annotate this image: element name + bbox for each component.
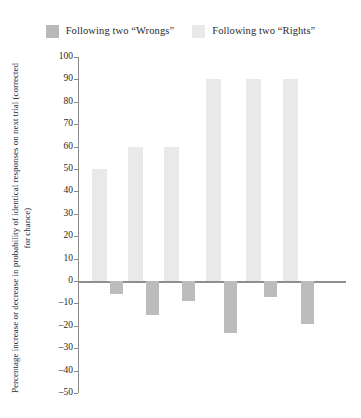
y-axis-title: Percentage increase or decrease in proba… xyxy=(9,58,33,398)
bar-wrongs-4 xyxy=(224,281,237,333)
bar-wrongs-3 xyxy=(182,281,195,301)
bars-group xyxy=(78,57,346,393)
y-tick-label: –10 xyxy=(59,299,73,309)
legend-swatch-rights xyxy=(192,25,205,38)
bar-wrongs-6 xyxy=(301,281,314,324)
y-tick-label: 30 xyxy=(64,209,74,219)
y-tick-label: 40 xyxy=(64,187,74,197)
y-tick-label: 100 xyxy=(59,52,73,62)
chart-figure: Following two “Wrongs” Following two “Ri… xyxy=(0,0,361,418)
y-axis-title-container: Percentage increase or decrease in proba… xyxy=(6,55,36,400)
y-tick-label: 10 xyxy=(64,254,74,264)
bar-rights-1 xyxy=(92,169,107,281)
bar-wrongs-5 xyxy=(264,281,277,297)
chart-legend: Following two “Wrongs” Following two “Ri… xyxy=(0,22,361,40)
y-tick-label: –40 xyxy=(59,366,73,376)
bar-wrongs-1 xyxy=(110,281,123,294)
y-tick-label: –20 xyxy=(59,321,73,331)
legend-swatch-wrongs xyxy=(46,25,59,38)
y-tick-label: 70 xyxy=(64,119,74,129)
y-tick-mark xyxy=(74,393,78,394)
legend-label-wrongs: Following two “Wrongs” xyxy=(66,26,175,37)
y-tick-label: 60 xyxy=(64,142,74,152)
legend-label-rights: Following two “Rights” xyxy=(212,26,315,37)
y-tick-label: 90 xyxy=(64,75,74,85)
legend-entry-rights: Following two “Rights” xyxy=(192,25,315,38)
bar-rights-2 xyxy=(128,147,143,281)
bar-rights-5 xyxy=(246,79,261,281)
y-tick-label: 50 xyxy=(64,164,74,174)
y-tick-label: 0 xyxy=(68,276,73,286)
y-tick-label: –50 xyxy=(59,388,73,398)
legend-entry-wrongs: Following two “Wrongs” xyxy=(46,25,175,38)
y-tick-label: 20 xyxy=(64,231,74,241)
plot-area: 1009080706050403020100–10–20–30–40–50 xyxy=(78,57,346,393)
bar-rights-3 xyxy=(164,147,179,281)
bar-wrongs-2 xyxy=(146,281,159,315)
bar-rights-4 xyxy=(206,79,221,281)
bar-rights-6 xyxy=(283,79,298,281)
y-tick-label: 80 xyxy=(64,97,74,107)
y-tick-label: –30 xyxy=(59,343,73,353)
